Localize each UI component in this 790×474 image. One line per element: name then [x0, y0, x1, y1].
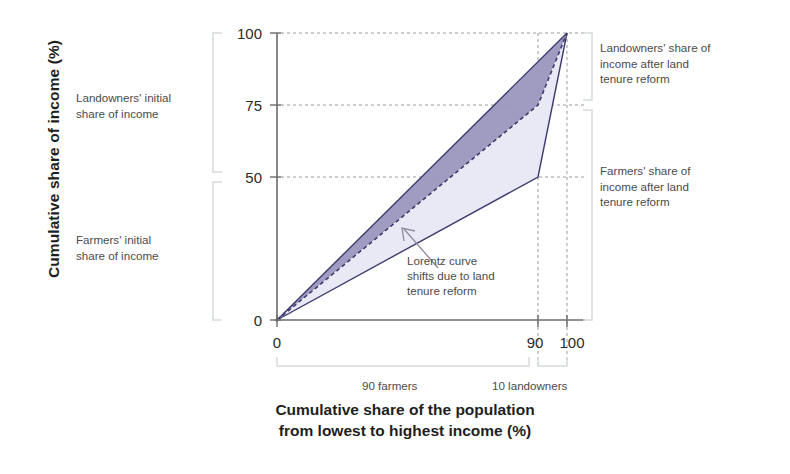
lorenz-curve-figure: Cumulative share of income (%) Cumulativ…	[0, 0, 790, 474]
y-tick-label-75: 75	[245, 97, 262, 114]
y-tick-label-0: 0	[254, 312, 262, 329]
x-tick-label-100: 100	[559, 334, 584, 351]
left-bracket-landowners-initial	[213, 33, 222, 172]
x-tick-label-90: 90	[527, 334, 544, 351]
left-bracket-farmers-initial	[213, 182, 222, 320]
bottom-bracket-90-farmers	[277, 357, 529, 366]
annotation-line-3: tenure reform	[407, 284, 477, 297]
bottom-bracket-10-landowners-path	[538, 357, 567, 366]
right-bracket-farmers-after-path	[583, 110, 592, 320]
right-bracket-landowners-after	[583, 33, 592, 100]
y-axis-ticks	[270, 33, 281, 320]
y-tick-label-100: 100	[237, 25, 262, 42]
right-bracket-landowners-after-path	[583, 33, 592, 100]
annotation-line-1: Lorentz curve	[407, 254, 477, 267]
bottom-bracket-90-farmers-path	[277, 357, 529, 366]
plot-svg: 100 75 50 0 0 90 100 Lorentz curve shift…	[0, 0, 790, 474]
right-bracket-farmers-after	[583, 110, 592, 320]
y-tick-label-50: 50	[245, 169, 262, 186]
annotation-line-2: shifts due to land	[407, 269, 495, 282]
left-bracket-landowners-initial-path	[213, 33, 222, 172]
x-tick-label-0: 0	[273, 334, 281, 351]
x-axis-ticks	[277, 315, 567, 327]
bottom-bracket-10-landowners	[538, 357, 567, 366]
left-bracket-farmers-initial-path	[213, 182, 222, 320]
